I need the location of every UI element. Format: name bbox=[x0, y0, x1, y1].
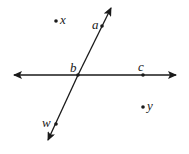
label-c: c bbox=[138, 59, 144, 74]
label-y: y bbox=[145, 98, 153, 113]
slanted-line-down bbox=[48, 75, 78, 140]
point-w bbox=[54, 122, 58, 126]
point-y bbox=[141, 105, 145, 109]
label-b: b bbox=[70, 60, 77, 75]
point-x bbox=[54, 19, 58, 23]
point-b bbox=[76, 73, 80, 77]
label-w: w bbox=[42, 115, 51, 130]
label-x: x bbox=[59, 12, 66, 27]
point-a bbox=[100, 24, 104, 28]
geometry-diagram: a b c w x y bbox=[0, 0, 189, 154]
label-a: a bbox=[92, 17, 99, 32]
